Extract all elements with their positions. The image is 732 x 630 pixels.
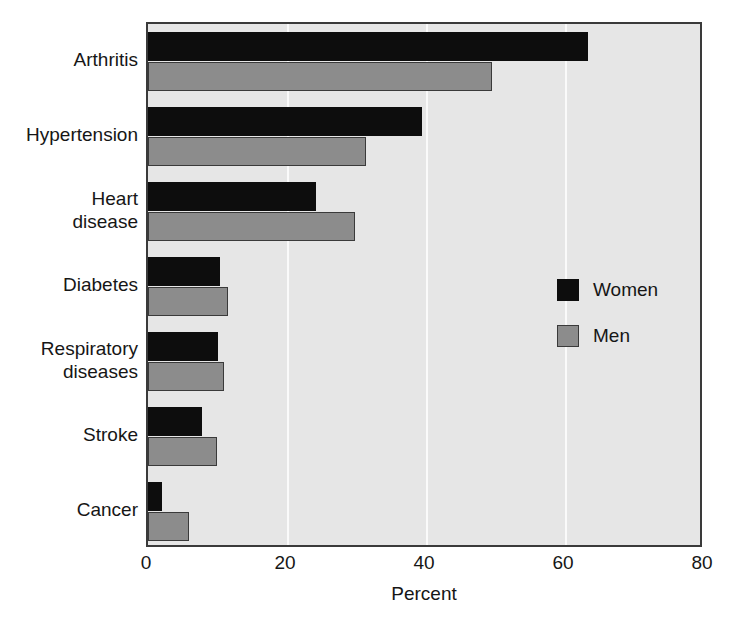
category-label: Cancer bbox=[2, 498, 138, 521]
bar-chart: ArthritisHypertensionHeart diseaseDiabet… bbox=[0, 0, 732, 630]
bar-men bbox=[148, 212, 355, 241]
bar-men bbox=[148, 512, 189, 541]
bar-women bbox=[148, 182, 316, 211]
x-tick-60: 60 bbox=[552, 552, 573, 574]
category-label: Diabetes bbox=[2, 273, 138, 296]
category-label: Respiratory diseases bbox=[2, 337, 138, 383]
legend-item-women: Women bbox=[557, 272, 697, 308]
bar-men bbox=[148, 437, 217, 466]
category-label: Heart disease bbox=[2, 187, 138, 233]
legend-swatch-women-icon bbox=[557, 279, 579, 301]
legend-swatch-men-icon bbox=[557, 325, 579, 347]
x-tick-20: 20 bbox=[274, 552, 295, 574]
plot-area: Women Men bbox=[146, 22, 702, 547]
gridline-20 bbox=[287, 24, 289, 545]
x-axis-tick-labels: 020406080 bbox=[146, 552, 702, 578]
bar-women bbox=[148, 332, 218, 361]
bar-women bbox=[148, 107, 422, 136]
bar-women bbox=[148, 407, 202, 436]
bar-women bbox=[148, 482, 162, 511]
legend-item-men: Men bbox=[557, 318, 697, 354]
legend-label-women: Women bbox=[593, 279, 658, 301]
y-axis-category-labels: ArthritisHypertensionHeart diseaseDiabet… bbox=[0, 22, 138, 547]
gridline-40 bbox=[426, 24, 428, 545]
category-label: Arthritis bbox=[2, 48, 138, 71]
category-label: Stroke bbox=[2, 423, 138, 446]
x-tick-40: 40 bbox=[413, 552, 434, 574]
bar-women bbox=[148, 32, 588, 61]
bar-men bbox=[148, 137, 366, 166]
bar-men bbox=[148, 287, 228, 316]
x-tick-80: 80 bbox=[691, 552, 712, 574]
category-label: Hypertension bbox=[2, 123, 138, 146]
bar-men bbox=[148, 362, 224, 391]
bar-men bbox=[148, 62, 492, 91]
x-tick-0: 0 bbox=[141, 552, 152, 574]
legend-label-men: Men bbox=[593, 325, 630, 347]
bar-women bbox=[148, 257, 220, 286]
legend: Women Men bbox=[557, 272, 697, 364]
x-axis-title: Percent bbox=[146, 583, 702, 605]
